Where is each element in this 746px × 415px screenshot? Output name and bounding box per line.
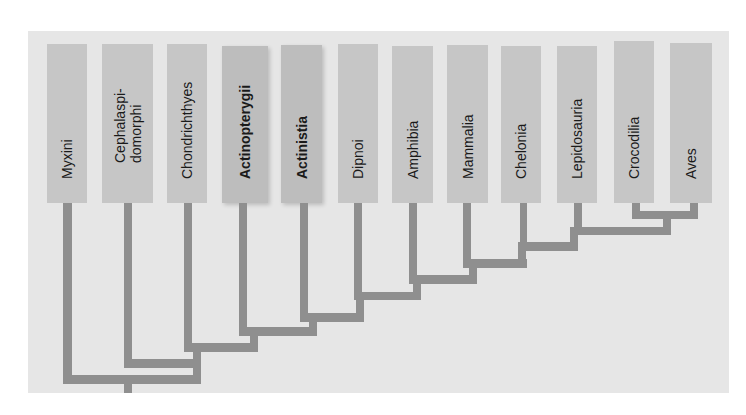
taxon-chelonia: Chelonia [501, 46, 541, 203]
taxon-label: Amphibia [405, 121, 421, 179]
taxon-label: Chondrichthyes [179, 82, 195, 179]
taxon-label: Actinopterygii [237, 85, 253, 179]
branch-myxini [63, 203, 72, 384]
taxon-label: Aves [683, 148, 699, 179]
taxon-cephalaspidomorphi: Cephalaspi- domorphi [102, 44, 153, 203]
taxon-actinopterygii: Actinopterygii [222, 46, 268, 203]
taxon-aves: Aves [670, 43, 712, 203]
node-vertebrata-bar [124, 359, 201, 368]
root-stem [124, 375, 132, 393]
taxon-label: Lepidosauria [569, 99, 585, 179]
taxon-label: Chelonia [513, 124, 529, 179]
branch-cephalaspidomorphi [124, 203, 132, 368]
taxon-label: Crocodilia [626, 117, 642, 179]
taxon-myxini: Myxini [47, 44, 87, 203]
taxon-label: Cephalaspi- domorphi [112, 88, 144, 163]
taxon-label: Dipnoi [350, 139, 366, 179]
node-rhipidistia-bar [354, 292, 421, 300]
branch-chondrichthyes [184, 203, 192, 352]
taxon-actinistia: Actinistia [281, 45, 322, 203]
branch-actinistia [300, 203, 308, 322]
taxon-amphibia: Amphibia [392, 46, 433, 203]
taxon-dipnoi: Dipnoi [338, 44, 378, 203]
node-diapsida-bar [574, 227, 671, 235]
taxon-label: Myxini [59, 139, 75, 179]
taxon-crocodilia: Crocodilia [614, 41, 654, 203]
branch-amphibia [409, 203, 417, 284]
taxon-label: Actinistia [294, 116, 310, 179]
taxon-label: Mammalia [460, 114, 476, 179]
taxon-chondrichthyes: Chondrichthyes [167, 44, 207, 203]
node-craniata-bar [63, 375, 201, 384]
node-reptilia-bar [520, 242, 578, 251]
taxon-mammalia: Mammalia [447, 45, 488, 203]
branch-actinopterygii [239, 203, 247, 336]
taxon-lepidosauria: Lepidosauria [557, 46, 597, 203]
branch-dipnoi [354, 203, 362, 300]
